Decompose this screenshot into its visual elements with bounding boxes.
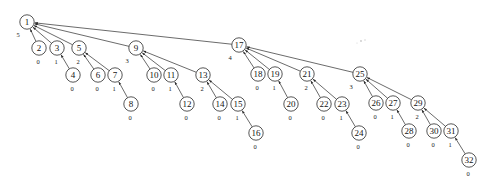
node-degree-28: 0 [406,141,409,148]
edge-12-to-11 [175,82,184,98]
node-degree-2: 0 [36,58,39,65]
node-degree-4: 0 [70,85,73,92]
node-label-24: 24 [355,128,365,138]
binomial-tree-diagram: 1520314052607180931001111201321401511601… [0,0,492,185]
node-27[interactable]: 271 [386,96,400,120]
node-label-32: 32 [465,155,474,165]
node-3[interactable]: 31 [50,41,64,65]
node-19[interactable]: 191 [268,67,282,91]
node-degree-9: 3 [125,57,128,64]
node-degree-5: 2 [76,58,79,65]
node-label-9: 9 [134,43,139,53]
node-degree-16: 0 [253,143,256,150]
node-label-25: 25 [356,69,366,79]
edge-28-to-27 [397,110,406,125]
node-label-10: 10 [150,70,160,80]
node-label-30: 30 [430,126,440,136]
edge-20-to-19 [279,81,288,98]
node-17[interactable]: 174 [228,38,246,61]
node-28[interactable]: 280 [402,124,416,148]
node-degree-18: 0 [255,84,258,91]
node-label-29: 29 [414,98,424,108]
node-32[interactable]: 320 [462,153,476,177]
node-label-6: 6 [96,70,101,80]
node-label-21: 21 [303,69,312,79]
node-6[interactable]: 60 [91,68,105,92]
node-14[interactable]: 140 [213,97,227,121]
edge-32-to-31 [455,138,465,154]
node-label-14: 14 [216,99,226,109]
node-label-2: 2 [37,43,42,53]
node-23[interactable]: 231 [335,97,349,121]
node-9[interactable]: 93 [125,41,143,64]
node-degree-10: 0 [151,85,154,92]
edge-6-to-5 [83,54,93,69]
node-degree-8: 0 [128,114,131,121]
node-degree-11: 1 [168,85,171,92]
node-degree-17: 4 [228,54,232,61]
node-degree-22: 0 [321,114,324,121]
node-degree-26: 0 [373,113,376,120]
node-16[interactable]: 160 [249,126,263,150]
node-degree-19: 1 [272,84,275,91]
node-15[interactable]: 151 [231,97,245,121]
node-10[interactable]: 100 [147,68,161,92]
node-20[interactable]: 200 [284,97,298,121]
edge-10-to-9 [140,54,150,69]
node-label-5: 5 [77,43,82,53]
node-8[interactable]: 80 [124,97,138,121]
edge-16-to-15 [242,111,252,127]
edge-18-to-17 [243,52,254,68]
edge-24-to-23 [346,111,355,127]
node-degree-14: 0 [217,114,220,121]
node-25[interactable]: 253 [349,67,367,90]
node-degree-13: 2 [200,85,203,92]
node-label-26: 26 [372,98,382,108]
node-26[interactable]: 260 [369,96,383,120]
node-degree-23: 1 [339,114,342,121]
graph-canvas: 1520314052607180931001111201321401511601… [0,0,492,185]
node-degree-27: 1 [390,113,393,120]
node-label-23: 23 [338,99,348,109]
node-label-16: 16 [252,128,262,138]
node-31[interactable]: 311 [444,124,458,148]
node-7[interactable]: 71 [108,68,122,92]
node-2[interactable]: 20 [32,41,46,65]
node-label-31: 31 [447,126,456,136]
node-degree-30: 0 [431,141,434,148]
node-label-3: 3 [55,43,60,53]
paper-speck-2 [364,39,365,40]
node-11[interactable]: 111 [164,68,178,92]
node-13[interactable]: 132 [196,68,210,92]
node-4[interactable]: 40 [66,68,80,92]
edge-26-to-25 [364,81,373,97]
node-30[interactable]: 300 [427,124,441,148]
node-label-7: 7 [113,70,118,80]
node-22[interactable]: 220 [317,97,331,121]
node-label-11: 11 [167,70,176,80]
node-12[interactable]: 120 [180,97,194,121]
edge-2-to-1 [30,29,36,41]
edge-23-to-21 [313,79,337,99]
node-label-20: 20 [287,99,297,109]
node-5[interactable]: 52 [72,41,86,65]
nodes-layer: 1520314052607180931001111201321401511601… [16,15,476,177]
paper-speck-3 [357,43,358,44]
node-1[interactable]: 15 [16,15,34,38]
node-degree-29: 2 [415,113,418,120]
node-18[interactable]: 180 [251,67,265,91]
node-label-28: 28 [405,126,415,136]
edge-8-to-7 [119,82,128,98]
node-degree-32: 0 [466,170,469,177]
node-24[interactable]: 240 [352,126,366,150]
node-label-17: 17 [235,40,245,50]
node-label-8: 8 [129,99,134,109]
node-label-19: 19 [271,69,281,79]
node-29[interactable]: 292 [411,96,425,120]
node-21[interactable]: 212 [300,67,314,91]
node-degree-6: 0 [95,85,98,92]
edge-4-to-3 [61,55,69,69]
edge-22-to-21 [311,81,321,98]
node-label-15: 15 [234,99,244,109]
node-label-18: 18 [254,69,264,79]
